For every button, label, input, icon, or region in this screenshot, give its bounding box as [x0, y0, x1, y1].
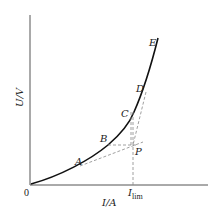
label-point-a: A: [74, 156, 82, 167]
label-point-b: B: [99, 133, 107, 144]
label-point-p: P: [134, 146, 142, 157]
tangent-line-a-p: [80, 142, 143, 166]
origin-label: 0: [24, 187, 29, 198]
u-i-curve: [31, 38, 158, 184]
ilim-subscript: lim: [132, 192, 143, 201]
y-axis-label: U/V: [14, 86, 25, 107]
ilim-label: Ilim: [127, 187, 143, 201]
label-point-d: D: [135, 83, 144, 94]
diagram-canvas: E D C B A P 0 I/A U/V Ilim: [0, 0, 220, 219]
x-axis-label: I/A: [101, 197, 117, 208]
label-point-e: E: [148, 37, 157, 48]
label-point-c: C: [121, 108, 129, 119]
